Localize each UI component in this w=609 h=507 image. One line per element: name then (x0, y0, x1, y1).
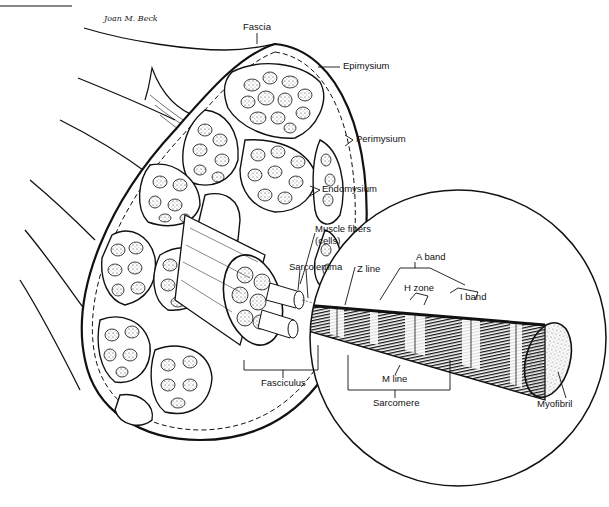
label-myofibril: Myofibril (537, 399, 572, 409)
label-sarcolemma: Sarcolemma (289, 262, 342, 272)
label-endomysium: Endomysium (322, 184, 377, 194)
label-i-band: I band (460, 292, 486, 302)
illustration (0, 0, 609, 507)
label-muscle-fibers: Muscle fibers (315, 224, 371, 234)
artist-signature: Joan M. Beck (104, 14, 158, 23)
label-muscle-fibers-cells: (cells) (315, 236, 340, 246)
label-perimysium: Perimysium (356, 134, 406, 144)
label-fascia: Fascia (243, 22, 271, 32)
label-sarcomere: Sarcomere (373, 398, 419, 408)
label-fasciculus: Fasciculus (261, 378, 306, 388)
label-a-band: A band (416, 252, 446, 262)
label-h-zone: H zone (404, 283, 434, 293)
label-epimysium: Epimysium (343, 61, 389, 71)
label-m-line: M line (382, 374, 407, 384)
muscle-structure-diagram: Joan M. Beck Fascia Epimysium Perimysium… (0, 0, 609, 507)
label-z-line: Z line (357, 264, 380, 274)
